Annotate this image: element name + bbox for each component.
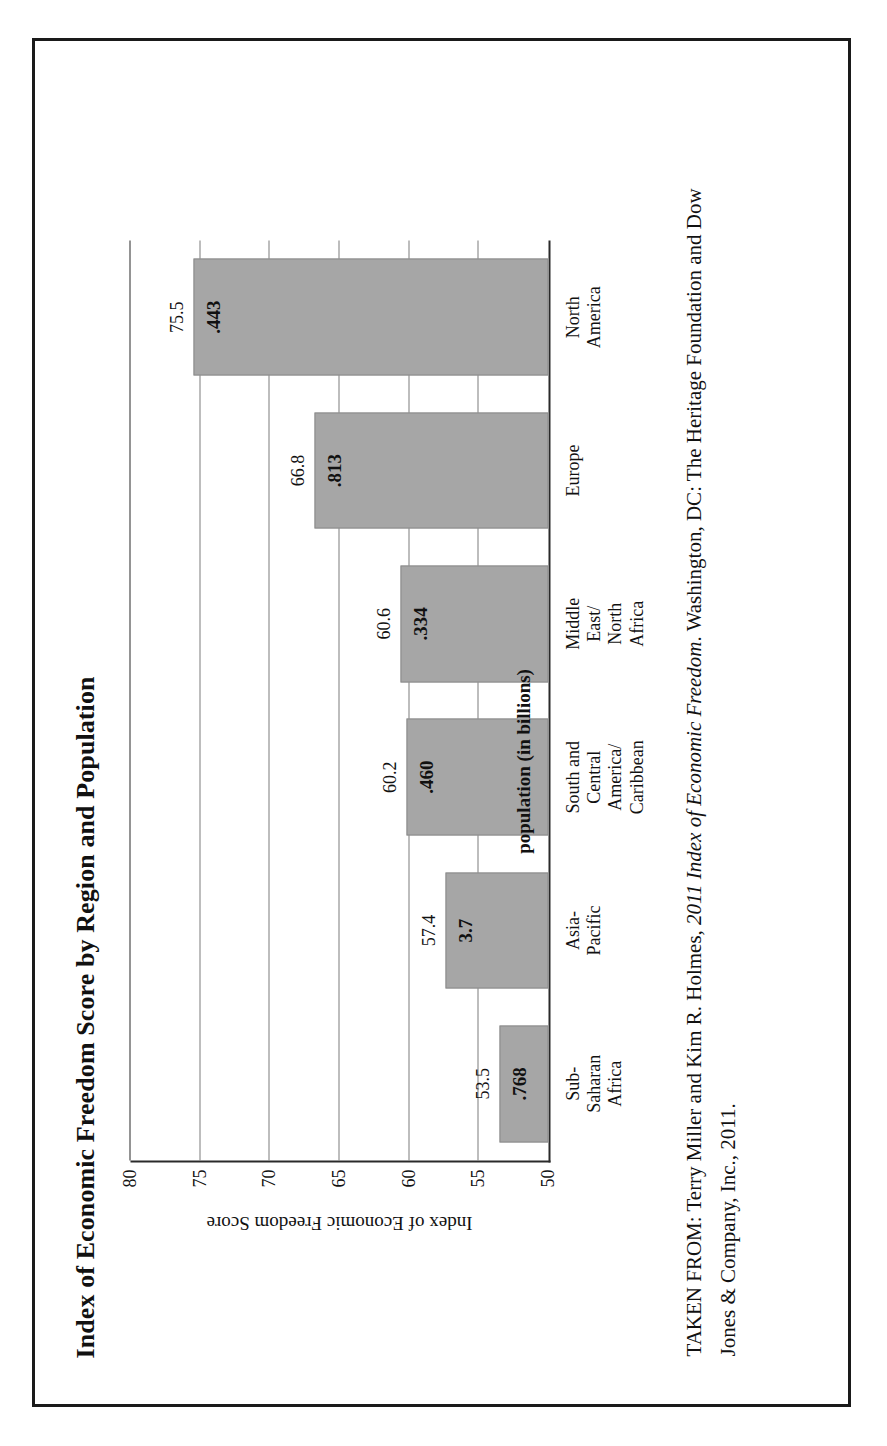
bar-score-label: 57.4 — [418, 914, 439, 946]
bar-score-label: 75.5 — [166, 301, 187, 333]
bar-population-label: .334 — [409, 607, 431, 640]
bar[interactable]: .334 — [400, 565, 548, 682]
bar-population-label: .460 — [415, 760, 437, 793]
bar-group: .46060.2South and Central America/ Carib… — [130, 700, 548, 853]
bar[interactable]: .813 — [314, 412, 548, 529]
bar-population-label: .813 — [323, 453, 345, 486]
bar-score-label: 60.2 — [379, 761, 400, 793]
bar[interactable]: .443 — [193, 258, 548, 375]
y-axis-tick-label: 55 — [468, 1169, 489, 1187]
category-label: South and Central America/ Caribbean — [562, 738, 647, 815]
figure-title: Index of Economic Freedom Score by Regio… — [70, 676, 100, 1358]
bar-chart: 50556065707580 .76853.5Sub-Saharan Afric… — [126, 240, 596, 1250]
bar-score-label: 60.6 — [373, 608, 394, 640]
bar-population-label: .443 — [202, 300, 224, 333]
category-label: Europe — [562, 444, 583, 496]
y-axis-tick-label: 50 — [538, 1169, 559, 1187]
citation-prefix: TAKEN FROM: Terry Miller and Kim R. Holm… — [681, 924, 705, 1356]
bar-population-label: .768 — [508, 1067, 530, 1100]
bar-group: .81366.8Europe — [130, 393, 548, 546]
series-annotation: population (in billions) — [512, 669, 534, 854]
bar-group: 3.757.4Asia-Pacific — [130, 853, 548, 1006]
citation-work-title: 2011 Index of Economic Freedom — [681, 641, 705, 924]
category-label: Asia-Pacific — [562, 892, 604, 969]
y-axis-tick-label: 65 — [329, 1169, 350, 1187]
plot-area: 50556065707580 .76853.5Sub-Saharan Afric… — [130, 240, 550, 1162]
category-label: Sub-Saharan Africa — [562, 1045, 626, 1122]
bar-score-label: 53.5 — [472, 1068, 493, 1100]
bar[interactable]: .768 — [499, 1025, 548, 1142]
y-axis-tick-label: 75 — [189, 1169, 210, 1187]
bar[interactable]: 3.7 — [445, 872, 548, 989]
rotated-figure-canvas: Index of Economic Freedom Score by Regio… — [64, 78, 819, 1368]
scanned-page-frame: Index of Economic Freedom Score by Regio… — [32, 38, 851, 1407]
bar-group: .44375.5North America — [130, 240, 548, 393]
y-axis-tick-label: 80 — [120, 1169, 141, 1187]
bar-series: .76853.5Sub-Saharan Africa3.757.4Asia-Pa… — [130, 240, 548, 1160]
category-label: North America — [562, 278, 604, 355]
bar-population-label: 3.7 — [454, 918, 476, 942]
bar-score-label: 66.8 — [287, 454, 308, 486]
category-label: Middle East/ North Africa — [562, 585, 647, 662]
y-axis-tick-label: 60 — [398, 1169, 419, 1187]
bar-group: .33460.6Middle East/ North Africa — [130, 547, 548, 700]
bar-group: .76853.5Sub-Saharan Africa — [130, 1007, 548, 1160]
y-axis-title: Index of Economic Freedom Score — [206, 1211, 472, 1233]
y-axis-tick-label: 70 — [259, 1169, 280, 1187]
source-citation: TAKEN FROM: Terry Miller and Kim R. Holm… — [676, 156, 744, 1356]
